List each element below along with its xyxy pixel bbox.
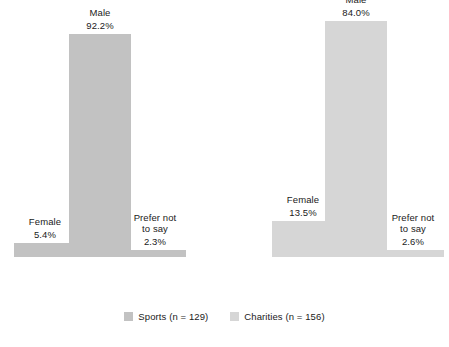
- bar-value-sports-female: 5.4%: [34, 229, 56, 240]
- bar-rect-charities-prefer-not-to-say[interactable]: [382, 250, 444, 257]
- bar-label-sports-male: Male: [90, 7, 111, 18]
- bar-group-sports-male[interactable]: Male 92.2%: [69, 7, 131, 257]
- bar-rect-sports-female[interactable]: [14, 243, 76, 257]
- legend-swatch-icon-charities: [230, 312, 239, 321]
- bar-value-sports-male: 92.2%: [86, 20, 113, 31]
- chart-legend: Sports (n = 129) Charities (n = 156): [0, 311, 449, 322]
- bar-rect-charities-male[interactable]: [325, 21, 387, 257]
- bar-group-charities-prefer-not-to-say[interactable]: Prefer not to say 2.6%: [382, 212, 444, 257]
- bar-label-charities-female: Female: [287, 194, 319, 205]
- gender-distribution-bar-chart: Female 5.4% Male 92.2% Prefer not to say…: [0, 0, 449, 347]
- legend-label-charities: Charities (n = 156): [244, 311, 324, 322]
- legend-swatch-icon-sports: [124, 312, 133, 321]
- legend-item-sports[interactable]: Sports (n = 129): [124, 311, 208, 322]
- bar-group-charities-male[interactable]: Male 84.0%: [325, 0, 387, 257]
- bar-rect-sports-male[interactable]: [69, 34, 131, 257]
- bar-value-charities-male: 84.0%: [342, 7, 369, 18]
- bar-label-charities-male: Male: [346, 0, 367, 5]
- bar-value-sports-prefer-not-to-say: 2.3%: [144, 236, 166, 247]
- bar-label-charities-prefer-not-to-say: Prefer not to say: [392, 212, 435, 234]
- bar-value-charities-female: 13.5%: [289, 207, 316, 218]
- bar-group-sports-prefer-not-to-say[interactable]: Prefer not to say 2.3%: [124, 212, 186, 257]
- bar-label-sports-female: Female: [29, 216, 61, 227]
- legend-item-charities[interactable]: Charities (n = 156): [230, 311, 324, 322]
- plot-area: Female 5.4% Male 92.2% Prefer not to say…: [0, 0, 449, 303]
- bar-label-sports-prefer-not-to-say: Prefer not to say: [134, 212, 177, 234]
- bar-group-sports-female[interactable]: Female 5.4%: [14, 216, 76, 257]
- bar-rect-sports-prefer-not-to-say[interactable]: [124, 250, 186, 257]
- legend-label-sports: Sports (n = 129): [138, 311, 208, 322]
- bar-value-charities-prefer-not-to-say: 2.6%: [402, 236, 424, 247]
